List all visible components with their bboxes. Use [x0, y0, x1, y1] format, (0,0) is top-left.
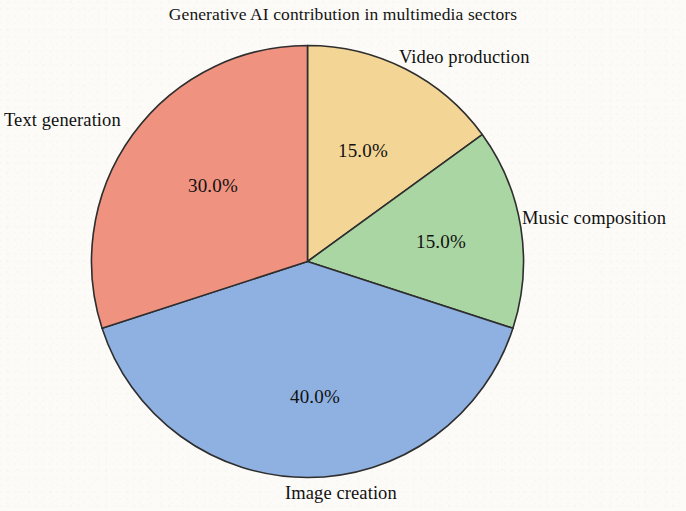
- slice-label-video-production: Video production: [399, 47, 529, 68]
- slice-percent-image-creation: 40.0%: [290, 386, 340, 408]
- slice-percent-video-production: 15.0%: [338, 140, 388, 162]
- slice-label-text-generation: Text generation: [4, 110, 121, 131]
- slice-label-music-composition: Music composition: [522, 208, 666, 229]
- pie-svg: [0, 0, 686, 511]
- pie-slices-group: [91, 46, 523, 478]
- slice-label-image-creation: Image creation: [285, 483, 397, 504]
- pie-chart-figure: Generative AI contribution in multimedia…: [0, 0, 686, 511]
- slice-percent-text-generation: 30.0%: [188, 175, 238, 197]
- slice-percent-music-composition: 15.0%: [416, 231, 466, 253]
